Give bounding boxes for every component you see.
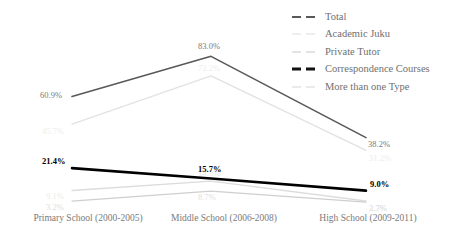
legend-item-correspondence-courses[interactable]: Correspondence Courses: [292, 61, 449, 79]
data-point-label: 9.0%: [370, 180, 389, 189]
x-tick-label-high-school: High School (2009-2011): [319, 213, 416, 223]
data-point-label: 15.7%: [198, 165, 221, 174]
data-point-label: 2.7%: [369, 204, 387, 213]
data-point-label: 9.1%: [46, 192, 64, 201]
legend-label: Correspondence Courses: [325, 64, 430, 75]
data-point-label: 8.7%: [198, 193, 216, 202]
legend-item-more-than-one-type[interactable]: More than one Type: [292, 78, 449, 96]
legend-item-private-tutor[interactable]: Private Tutor: [292, 43, 449, 61]
data-point-label: 38.2%: [368, 140, 390, 149]
legend-item-total[interactable]: Total: [292, 8, 449, 26]
legend-line-icon: [292, 12, 318, 22]
x-tick-label-primary-school: Primary School (2000-2005): [33, 213, 142, 223]
x-tick-label-middle-school: Middle School (2006-2008): [171, 213, 277, 223]
x-axis-labels: Primary School (2000-2005) Middle School…: [0, 213, 449, 229]
legend-label: Academic Juku: [325, 29, 390, 40]
line-chart: Total Academic Juku Private Tutor Corres…: [0, 0, 449, 241]
legend-label: More than one Type: [325, 82, 410, 93]
data-point-label: 31.2%: [369, 154, 391, 163]
chart-legend: Total Academic Juku Private Tutor Corres…: [292, 8, 449, 96]
data-point-label: 3.2%: [46, 203, 64, 212]
legend-line-icon: [292, 29, 318, 39]
series-line: [72, 191, 366, 202]
legend-line-icon: [292, 64, 318, 74]
legend-line-icon: [292, 47, 318, 57]
data-point-label: 60.9%: [40, 91, 62, 100]
legend-item-academic-juku[interactable]: Academic Juku: [292, 26, 449, 44]
data-point-label: 83.0%: [198, 42, 220, 51]
data-point-label: 72.2%: [198, 64, 220, 73]
legend-label: Private Tutor: [325, 47, 380, 58]
legend-line-icon: [292, 82, 318, 92]
legend-label: Total: [325, 12, 346, 23]
data-point-label: 21.4%: [42, 157, 65, 166]
data-point-label: 45.7%: [42, 127, 64, 136]
